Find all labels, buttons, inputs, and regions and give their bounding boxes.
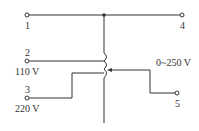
terminal-3-label: 3 <box>25 84 30 95</box>
coil-icon <box>104 53 107 78</box>
terminal-5-icon <box>175 91 179 95</box>
terminal-3-icon <box>25 96 29 100</box>
wire-output <box>109 70 175 93</box>
terminal-4-icon <box>180 13 184 17</box>
terminal-2-icon <box>25 59 29 63</box>
autotransformer-diagram: 1 4 2 110 V 3 220 V 0~250 V 5 <box>0 0 199 131</box>
terminal-2-label: 2 <box>25 47 30 58</box>
output-range-label: 0~250 V <box>156 57 192 68</box>
wire-220v <box>29 73 104 98</box>
wiper-arrow-icon <box>107 68 112 72</box>
terminal-1-label: 1 <box>25 20 30 31</box>
junction-dot <box>102 13 106 17</box>
terminal-4-label: 4 <box>180 20 185 31</box>
terminal-1-icon <box>25 13 29 17</box>
terminal-5-label: 5 <box>175 98 180 109</box>
voltage-220-label: 220 V <box>15 103 40 114</box>
voltage-110-label: 110 V <box>15 66 40 77</box>
